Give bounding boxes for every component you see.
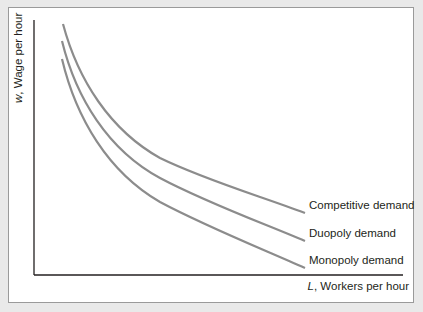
y-axis-text: , Wage per hour — [12, 13, 24, 95]
monopoly-demand-label: Monopoly demand — [309, 254, 404, 266]
x-axis-label: L, Workers per hour — [308, 280, 409, 292]
competitive-demand-curve — [63, 24, 305, 213]
duopoly-demand-curve — [62, 41, 305, 241]
x-axis-text: , Workers per hour — [314, 280, 409, 292]
competitive-demand-label: Competitive demand — [309, 199, 414, 211]
duopoly-demand-label: Duopoly demand — [309, 227, 396, 239]
y-axis-variable: w — [12, 95, 24, 103]
y-axis-label: w, Wage per hour — [12, 13, 24, 103]
monopoly-demand-curve — [62, 59, 305, 268]
